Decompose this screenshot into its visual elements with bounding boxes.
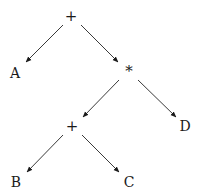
edge-mul-to-d [138, 80, 176, 117]
edge-plus2-to-b [27, 135, 63, 172]
node-c: C [124, 174, 135, 190]
node-root-plus: + [65, 7, 78, 25]
edges [26, 25, 176, 172]
expression-tree-diagram: + A * + D B C [0, 0, 202, 193]
edge-root-to-mul [81, 25, 118, 62]
node-a: A [9, 65, 21, 81]
node-d: D [179, 118, 190, 134]
node-multiply: * [125, 62, 133, 80]
edge-mul-to-plus2 [83, 80, 119, 117]
node-inner-plus: + [66, 117, 79, 135]
node-b: B [11, 174, 21, 190]
edge-plus2-to-c [82, 135, 119, 172]
edge-root-to-a [26, 25, 63, 62]
